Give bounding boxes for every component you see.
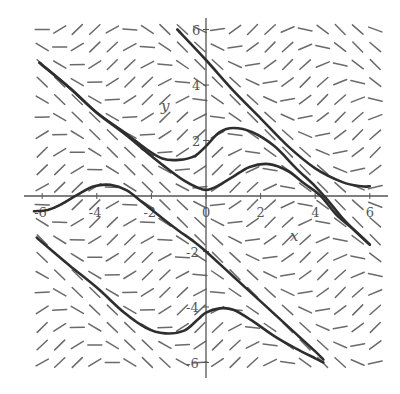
slope-segment [281,362,295,364]
slope-segment [353,42,363,52]
slope-segment [194,114,207,120]
slope-segment [299,44,312,49]
slope-segment [212,359,224,367]
slope-segment [316,62,329,67]
slope-segment [265,200,275,209]
slope-segment [159,342,171,349]
slope-segment [246,79,259,85]
slope-segment [300,60,311,69]
slope-segment [142,95,152,105]
slope-segment [124,271,136,278]
slope-segment [54,61,66,68]
slope-segment [281,186,295,188]
slope-segment [36,272,48,279]
slope-segment [90,305,100,315]
slope-segment [316,309,330,311]
slope-segment [316,150,329,155]
slope-segment [160,288,170,298]
slope-segment [142,270,152,280]
slope-segment [300,235,310,244]
slope-segment [211,204,225,206]
slope-segment [246,63,260,65]
slope-segment [107,217,117,227]
slope-segment [54,149,66,156]
slope-segment [264,97,277,103]
slope-segment [90,25,100,35]
slope-segment [229,25,240,33]
slope-segment [212,235,222,245]
slope-segment [300,148,311,157]
slope-segment [264,60,275,68]
slope-segment [71,254,83,261]
slope-segment [300,271,311,279]
slope-segment [229,324,241,331]
slope-segment [158,64,172,65]
slope-segment [317,25,328,33]
slope-segment [55,95,65,105]
slope-segment [142,26,154,34]
slope-segment [89,359,101,366]
slope-segment [89,96,101,103]
slope-segment [37,323,47,333]
slope-segment [281,27,294,33]
slope-segment [281,274,295,276]
slope-segment [89,61,101,69]
slope-segment [55,182,65,192]
slope-segment [72,200,82,210]
slope-segment [370,305,381,314]
slope-segment [125,147,135,157]
slope-segment [37,253,47,263]
slope-segment [89,324,101,331]
slope-segment [370,235,380,245]
slope-segment [265,217,275,227]
slope-segment [282,305,292,314]
slope-segment [370,60,380,70]
slope-segment [212,96,224,104]
slope-segment [316,46,330,49]
slope-segment [55,358,65,368]
slope-segment [353,288,364,297]
slope-segment [335,43,346,52]
slope-segment [89,236,101,243]
slope-segment [72,112,82,122]
slope-segment [247,358,257,368]
slope-segment [298,204,312,207]
slope-segment [36,43,48,50]
slope-segment [370,323,380,333]
slope-segment [369,115,382,120]
slope-segment [159,43,171,51]
slope-segment [71,131,83,138]
slope-segment [335,306,346,314]
slope-segment [160,358,170,368]
slope-segment [125,60,135,70]
slope-segment [35,292,49,293]
slope-segment [211,219,223,225]
slope-segment [212,271,224,279]
slope-segment [281,289,294,295]
slope-segment [263,81,277,83]
slope-segment [193,99,207,101]
slope-segment [264,359,277,365]
slope-segment [176,272,188,279]
slope-segment [282,253,293,261]
slope-segment [370,43,381,52]
y-tick-label: -6 [186,356,199,371]
slope-segment [37,147,47,157]
slope-segment [317,288,328,296]
slope-segment [265,42,275,52]
slope-segment [89,149,101,156]
slope-segment [333,326,347,329]
x-tick-label: 6 [366,205,374,220]
slope-segment [106,78,118,86]
slope-segment [335,95,346,104]
slope-segment [175,345,189,346]
slope-segment [212,323,222,333]
slope-segment [140,134,154,135]
slope-segment [265,25,275,34]
slope-segment [107,235,117,245]
slope-segment [160,182,170,192]
slope-segment [36,306,48,314]
slope-segment [335,183,345,192]
x-tick-label: 0 [202,205,210,220]
y-tick-label: -4 [186,300,199,315]
